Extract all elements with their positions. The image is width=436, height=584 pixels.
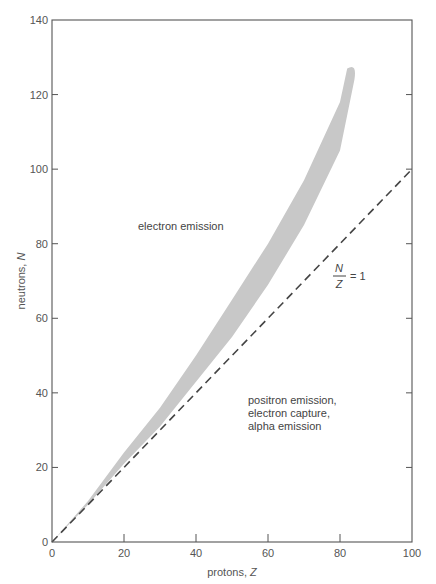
y-tick-label: 140 — [30, 14, 48, 26]
n-equals-z-line — [52, 169, 412, 542]
y-tick-label: 100 — [30, 163, 48, 175]
svg-text:= 1: = 1 — [350, 270, 366, 282]
x-tick-label: 40 — [190, 547, 202, 559]
positron-emission-label: positron emission, — [248, 394, 337, 406]
n-equals-z-dashed-line — [52, 169, 412, 542]
x-tick-label: 0 — [49, 547, 55, 559]
ratio-label: N Z = 1 — [333, 262, 366, 290]
y-tick-label: 120 — [30, 89, 48, 101]
stability-band — [52, 67, 355, 542]
chart: 020406080100020406080100120140 protons, … — [0, 0, 436, 584]
alpha-emission-label: alpha emission — [248, 420, 321, 432]
stability-band-area — [52, 67, 355, 542]
tick-labels: 020406080100020406080100120140 — [30, 14, 422, 559]
electron-capture-label: electron capture, — [248, 407, 330, 419]
x-tick-label: 60 — [262, 547, 274, 559]
y-axis-title: neutrons, N — [15, 253, 27, 310]
y-tick-label: 40 — [36, 387, 48, 399]
x-axis-title: protons, Z — [207, 566, 258, 578]
y-tick-label: 80 — [36, 238, 48, 250]
svg-text:N: N — [335, 262, 343, 274]
x-tick-label: 20 — [118, 547, 130, 559]
x-tick-label: 100 — [403, 547, 421, 559]
y-tick-label: 0 — [42, 536, 48, 548]
x-tick-label: 80 — [334, 547, 346, 559]
svg-text:Z: Z — [335, 278, 344, 290]
y-tick-label: 20 — [36, 461, 48, 473]
y-tick-label: 60 — [36, 312, 48, 324]
electron-emission-label: electron emission — [138, 220, 224, 232]
